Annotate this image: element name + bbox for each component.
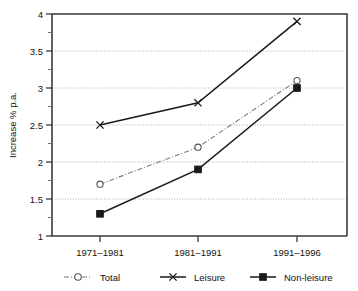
series-leisure	[96, 18, 300, 129]
legend-label-total: Total	[100, 272, 120, 283]
legend-marker-square-icon	[260, 274, 267, 281]
data-point-non-leisure	[195, 166, 202, 173]
data-point-total	[97, 181, 103, 187]
data-point-non-leisure	[97, 211, 104, 218]
y-tick-label: 4	[38, 9, 43, 20]
y-tick-label: 1	[38, 231, 43, 242]
y-tick-label: 2	[38, 157, 43, 168]
chart-container: 4 3.5 3 2.5 2 1.5 1 Increase % p.a. 1971…	[0, 0, 358, 291]
data-point-total	[294, 78, 300, 84]
chart-legend: Total Leisure Non-leisure	[64, 272, 333, 283]
x-axis-ticks	[100, 236, 297, 242]
legend-label-leisure: Leisure	[194, 272, 225, 283]
data-point-leisure	[293, 18, 300, 25]
x-tick-label: 1991–1996	[273, 247, 321, 258]
line-chart: 4 3.5 3 2.5 2 1.5 1 Increase % p.a. 1971…	[0, 0, 358, 291]
y-tick-label: 3	[38, 83, 43, 94]
x-tick-label: 1981–1991	[174, 247, 222, 258]
y-axis-labels: 4 3.5 3 2.5 2 1.5 1	[30, 9, 43, 242]
y-tick-label: 3.5	[30, 46, 43, 57]
y-tick-label: 2.5	[30, 120, 43, 131]
x-tick-label: 1971–1981	[76, 247, 124, 258]
legend-item-non-leisure: Non-leisure	[250, 272, 333, 283]
legend-marker-circle-icon	[75, 274, 82, 281]
y-axis-ticks	[46, 14, 52, 236]
x-axis-labels: 1971–1981 1981–1991 1991–1996	[76, 247, 321, 258]
y-tick-label: 1.5	[30, 194, 43, 205]
legend-label-non-leisure: Non-leisure	[284, 272, 333, 283]
legend-item-leisure: Leisure	[160, 272, 225, 283]
series-non-leisure	[97, 85, 301, 217]
legend-item-total: Total	[64, 272, 120, 283]
data-point-non-leisure	[294, 85, 301, 92]
y-axis-title: Increase % p.a.	[7, 92, 18, 158]
data-point-total	[195, 144, 201, 150]
